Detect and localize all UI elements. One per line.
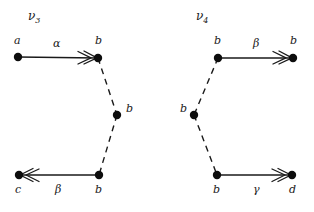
diagram-nu4: ν4 b b b b d β γ xyxy=(180,9,297,196)
edge-label-alpha: α xyxy=(53,37,61,50)
node-b-top-right[interactable] xyxy=(94,54,102,62)
diagram-title-nu3: ν3 xyxy=(28,9,40,25)
node-label-b-top-right: b xyxy=(95,34,102,47)
node-b-middle[interactable] xyxy=(113,111,121,119)
node-label-a: a xyxy=(14,34,21,47)
edge-b-to-b-lower-right xyxy=(194,115,217,175)
node-b-middle-right-diagram[interactable] xyxy=(190,111,198,119)
node-label-d: d xyxy=(289,183,296,196)
node-label-b-bottom-left-right-diagram: b xyxy=(213,183,220,196)
edge-a-to-b-alpha xyxy=(18,57,98,58)
edge-b-to-b-lower xyxy=(99,115,117,175)
edge-b-to-b-upper-right xyxy=(194,58,218,115)
node-label-b-middle-right-diagram: b xyxy=(180,102,187,115)
node-d[interactable] xyxy=(288,171,296,179)
edge-label-beta-right: β xyxy=(252,37,259,50)
node-c[interactable] xyxy=(15,171,23,179)
node-b-bottom-left-right-diagram[interactable] xyxy=(213,171,221,179)
node-a[interactable] xyxy=(14,53,22,61)
edge-label-beta-left: β xyxy=(54,183,61,196)
diagram-title-nu4: ν4 xyxy=(196,9,208,25)
edge-label-gamma: γ xyxy=(253,183,260,196)
diagram-nu3: ν3 a b b b c α β xyxy=(14,9,133,196)
graph-figure: ν3 a b b b c α β ν4 xyxy=(0,0,314,212)
node-label-b-bottom-right: b xyxy=(95,183,102,196)
node-label-c: c xyxy=(15,183,21,196)
node-b-bottom-right[interactable] xyxy=(95,171,103,179)
node-label-b-middle: b xyxy=(126,102,133,115)
node-b-top-left-right-diagram[interactable] xyxy=(214,54,222,62)
node-label-b-top-right-right-diagram: b xyxy=(290,34,297,47)
edge-b-to-b-upper xyxy=(98,58,117,115)
node-label-b-top-left-right-diagram: b xyxy=(214,34,221,47)
node-b-top-right-right-diagram[interactable] xyxy=(289,54,297,62)
